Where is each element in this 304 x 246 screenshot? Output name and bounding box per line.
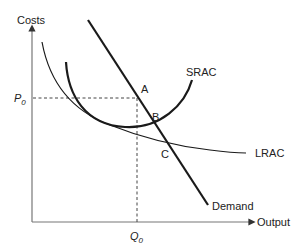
- point-a-label: A: [141, 83, 149, 95]
- p0-tick-label: P0: [14, 92, 26, 107]
- srac-label: SRAC: [186, 66, 217, 78]
- x-axis-label: Output: [257, 216, 290, 228]
- demand-label: Demand: [212, 200, 254, 212]
- chart-canvas: Costs Output P0 Q0 A B C SRAC LRAC Deman…: [0, 0, 304, 246]
- point-b-label: B: [152, 111, 159, 123]
- point-c-label: C: [161, 148, 169, 160]
- q0-tick-label: Q0: [130, 230, 144, 245]
- demand-line: [88, 20, 208, 205]
- srac-curve: [66, 62, 192, 127]
- y-axis-label: Costs: [17, 14, 46, 26]
- lrac-label: LRAC: [255, 147, 284, 159]
